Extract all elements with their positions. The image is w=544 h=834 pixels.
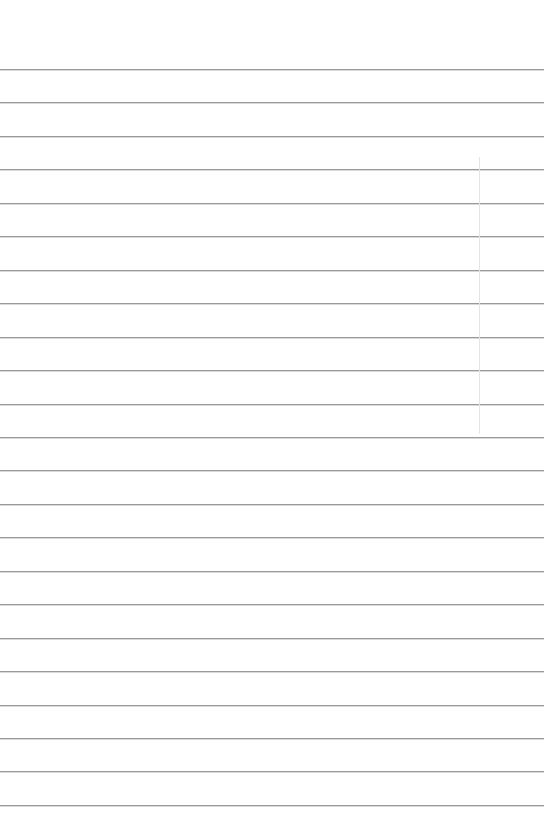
ruled-line xyxy=(0,504,544,505)
ruled-line xyxy=(0,169,544,170)
ruled-line xyxy=(0,705,544,706)
faint-vertical-line xyxy=(479,157,480,434)
ruled-line xyxy=(0,638,544,639)
ruled-line xyxy=(0,470,544,471)
ruled-line xyxy=(0,236,544,237)
ruled-line xyxy=(0,604,544,605)
ruled-line xyxy=(0,136,544,137)
ruled-line xyxy=(0,303,544,304)
ruled-line xyxy=(0,437,544,438)
ruled-line xyxy=(0,270,544,271)
ruled-line xyxy=(0,771,544,772)
ruled-line xyxy=(0,203,544,204)
ruled-line xyxy=(0,671,544,672)
ruled-line xyxy=(0,738,544,739)
ruled-line xyxy=(0,571,544,572)
ruled-line xyxy=(0,102,544,103)
ruled-line xyxy=(0,370,544,371)
lined-paper-page xyxy=(0,0,544,834)
ruled-line xyxy=(0,404,544,405)
ruled-line xyxy=(0,69,544,70)
ruled-line xyxy=(0,337,544,338)
ruled-line xyxy=(0,805,544,806)
ruled-line xyxy=(0,537,544,538)
